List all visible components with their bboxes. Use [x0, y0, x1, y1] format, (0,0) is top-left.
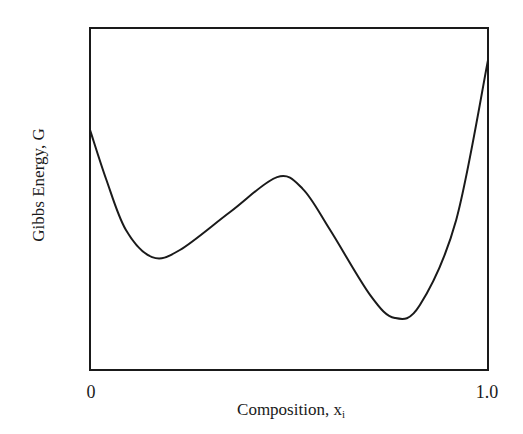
gibbs-energy-curve — [90, 60, 488, 319]
x-axis-title-subscript: i — [342, 408, 345, 420]
x-tick-label-1: 1.0 — [476, 383, 499, 401]
plot-frame — [90, 28, 488, 370]
x-axis-title-text: Composition, x — [237, 400, 342, 419]
x-axis-title: Composition, xi — [237, 400, 345, 424]
y-axis-title: Gibbs Energy, G — [29, 128, 49, 241]
chart-canvas — [0, 0, 523, 434]
x-tick-label-0: 0 — [87, 383, 96, 401]
